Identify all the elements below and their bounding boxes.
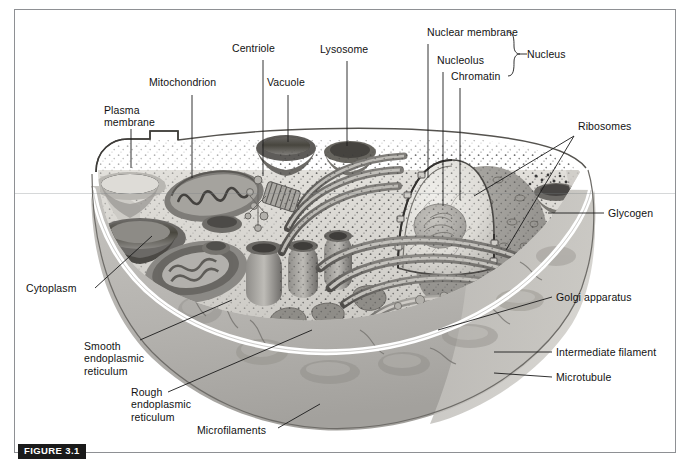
label-vacuole: Vacuole	[267, 76, 305, 88]
label-plasma-membrane: Plasma membrane	[104, 104, 155, 129]
label-glycogen: Glycogen	[608, 207, 653, 219]
label-ribosomes: Ribosomes	[578, 120, 631, 132]
label-lysosome: Lysosome	[320, 43, 368, 55]
label-golgi-apparatus: Golgi apparatus	[556, 291, 632, 303]
label-centriole: Centriole	[232, 42, 275, 54]
label-nucleolus: Nucleolus	[437, 54, 484, 66]
label-chromatin: Chromatin	[451, 70, 500, 82]
label-nucleus: Nucleus	[527, 48, 566, 60]
label-smooth-er: Smooth endoplasmic reticulum	[84, 340, 144, 377]
figure-page: Plasma membrane Mitochondrion Centriole …	[0, 0, 690, 475]
label-microfilaments: Microfilaments	[197, 424, 266, 436]
label-microtubule: Microtubule	[556, 371, 611, 383]
label-cytoplasm: Cytoplasm	[26, 282, 77, 294]
figure-number-badge: FIGURE 3.1	[18, 444, 86, 459]
label-intermediate-filament: Intermediate filament	[556, 346, 656, 358]
figure-frame	[14, 9, 676, 453]
label-nuclear-membrane: Nuclear membrane	[427, 26, 518, 38]
scan-artifact-line	[15, 193, 675, 194]
label-rough-er: Rough endoplasmic reticulum	[131, 386, 191, 423]
label-mitochondrion: Mitochondrion	[149, 76, 216, 88]
